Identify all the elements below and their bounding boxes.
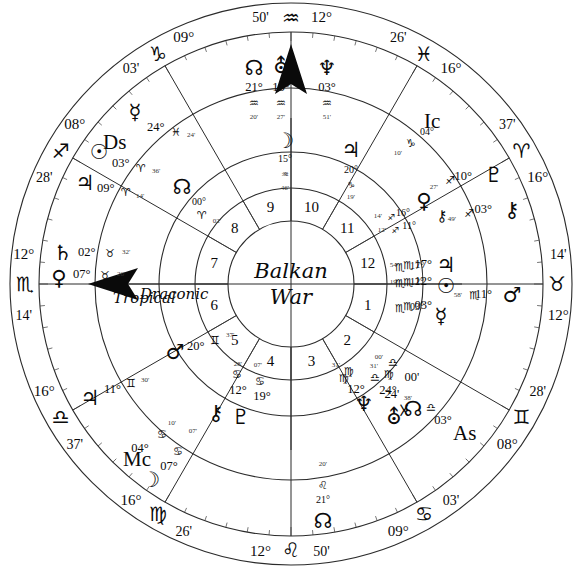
cancer-lower-min1: 28' — [234, 360, 242, 368]
cusp-degree-9: 09° — [173, 29, 194, 45]
house-number-8[interactable]: 8 — [231, 220, 239, 236]
degree-tick — [48, 348, 53, 349]
degree-tick — [85, 140, 89, 143]
house-cell-divider — [208, 236, 237, 253]
house-number-3[interactable]: 3 — [308, 353, 316, 369]
degree-tick — [537, 262, 542, 263]
house-number-2[interactable]: 2 — [343, 332, 351, 348]
scorpio-sign-17: ♏ — [395, 261, 405, 274]
degree-tick — [54, 198, 59, 200]
libra-as-minute: 38' — [404, 394, 412, 402]
draconic-virgo[interactable]: ♍ — [344, 365, 354, 378]
degree-tick — [247, 527, 248, 532]
draconic-leo-node[interactable]: ♌ 21° 20' ☊ — [314, 460, 333, 533]
draconic-moon[interactable]: ☽ 15° ♒ 46' — [276, 129, 295, 192]
mercury-pisces-icon: ☿ — [129, 100, 142, 124]
cusp-degree-2: 08° — [497, 436, 518, 452]
degree-tick — [355, 523, 356, 528]
neptune-degree: 03° — [318, 80, 336, 94]
house-number-6[interactable]: 6 — [210, 297, 218, 313]
planet-mars-gemini[interactable]: ♂ 20° ♊ 37' — [166, 331, 235, 364]
draconic-moon-sign: ♒ — [281, 169, 289, 179]
degree-tick — [185, 56, 187, 61]
degree-tick — [480, 443, 484, 446]
degree-tick — [334, 36, 335, 41]
house-number-1[interactable]: 1 — [364, 297, 372, 313]
house-number-12[interactable]: 12 — [360, 255, 375, 271]
venus-sag-sign: ♐ — [387, 212, 395, 222]
aries-node-icon: ☊ — [173, 175, 192, 199]
jupiter-gemini-sign: ♊ — [126, 377, 136, 390]
scorpio-sign-12: ♏ — [395, 277, 405, 290]
planet-chiron[interactable]: ⚷ 03° ♐ 49' — [448, 198, 520, 223]
uranus-sign: ♒ — [276, 97, 286, 110]
house-cell-divider — [346, 236, 375, 253]
mercury-pisces-degree: 24° — [147, 120, 165, 134]
cusp-sign-9: ♑ — [149, 42, 167, 66]
leo-node-degree: 21° — [316, 494, 330, 505]
degree-tick — [73, 406, 81, 411]
degree-tick — [534, 327, 539, 328]
mars-gemini-minute: 37' — [226, 331, 234, 339]
degree-tick — [466, 106, 470, 110]
degree-tick — [537, 306, 542, 307]
pluto-degree: 10° — [455, 169, 473, 183]
chiron-sag-min: 12' — [378, 226, 386, 234]
jupiter-aries-degree: 09° — [97, 181, 115, 195]
libra-as-degree: 03° — [434, 413, 452, 427]
degree-tick — [530, 219, 535, 220]
cusp-minute-11: 26' — [390, 30, 407, 45]
degree-tick — [413, 66, 418, 74]
degree-tick — [54, 369, 59, 371]
degree-tick — [247, 36, 248, 41]
neptune-virgo-degree: 12° — [347, 382, 365, 396]
degree-tick — [523, 198, 528, 200]
house-cell-divider — [323, 201, 340, 230]
draconic-aries-node[interactable]: ☊ 00° ♈ 02' — [173, 175, 221, 225]
planet-chiron-pluto-lower[interactable]: ⚷ ♇ 12° 19° ♋ ♋ 28' 07' — [208, 360, 270, 429]
planet-uranus[interactable]: ⛢ 15° ♒ 27' — [272, 54, 290, 121]
house-number-7[interactable]: 7 — [210, 255, 218, 271]
cancer-lower-degree1: 12° — [229, 383, 247, 397]
house-number-4[interactable]: 4 — [267, 353, 275, 369]
planet-jupiter-gemini[interactable]: ♃ 11° ♊ 30' — [81, 376, 150, 410]
planet-neptune[interactable]: ♆ 03° ♒ 51' — [318, 56, 337, 121]
degree-tick — [129, 473, 132, 477]
house-number-10[interactable]: 10 — [304, 199, 319, 215]
jupiter-aries-minute: 14' — [136, 192, 144, 200]
planet-jupiter-aries[interactable]: ♃ 09° ♈ 14' — [76, 171, 145, 200]
ascendant-label: As — [453, 421, 476, 445]
draconic-moon-minute: 46' — [281, 184, 289, 192]
degree-tick — [43, 240, 48, 241]
cusp-sign-11: ♓ — [415, 42, 433, 66]
cusp-degree-4: 12° — [250, 543, 271, 559]
planet-north-node[interactable]: ☊ 21° ♒ 20' — [245, 56, 264, 121]
degree-tick — [395, 56, 397, 61]
planet-uranus-node-lower[interactable]: ⛢ ☊ 24° 00' ♍ ♎ 31' 00' — [370, 353, 422, 429]
uranus-icon: ⛢ — [273, 54, 288, 78]
uranus-lower-icon: ⛢ — [386, 405, 401, 429]
house-number-9[interactable]: 9 — [267, 199, 275, 215]
cusp-degree-10: 12° — [311, 9, 332, 25]
degree-tick — [515, 388, 520, 390]
degree-tick — [466, 459, 470, 463]
planet-saturn[interactable]: ♄ 02° ♉ 32' — [54, 241, 131, 265]
degree-tick — [98, 122, 102, 125]
planet-pluto[interactable]: ♇ 10° ♐ 27' — [430, 163, 504, 191]
cusp-minute-6: 37' — [67, 437, 84, 452]
venus-sag-icon: ♀ — [416, 189, 431, 213]
venus-sag-min: 14' — [374, 212, 382, 220]
mars-sign: ♏ — [469, 289, 479, 302]
cusp-degree-7: 12° — [13, 246, 34, 262]
degree-tick — [113, 459, 117, 463]
mercury-scorpio-icon: ☿ — [435, 304, 448, 328]
planet-mars[interactable]: ♂ 11° ♏ 58' — [454, 283, 522, 307]
chiron-lower-icon: ⚷ — [208, 401, 223, 425]
draconic-jupiter-icon: ♃ — [342, 138, 361, 162]
cusp-sign-10: ♒ — [282, 6, 300, 30]
ic-capricorn-minute: 10' — [394, 149, 402, 157]
house-number-11[interactable]: 11 — [340, 220, 354, 236]
cusp-sign-6: ♎ — [52, 405, 70, 429]
cusp-sign-5: ♍ — [149, 502, 167, 526]
planet-venus-sag[interactable]: ♀ ⚷ 16° 11° ♐ ♐ 14' 12' — [374, 189, 448, 235]
